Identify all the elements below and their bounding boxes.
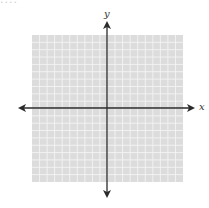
y-axis-label: y bbox=[104, 9, 110, 19]
x-axis-label: x bbox=[199, 102, 205, 112]
coordinate-plane bbox=[0, 0, 209, 208]
